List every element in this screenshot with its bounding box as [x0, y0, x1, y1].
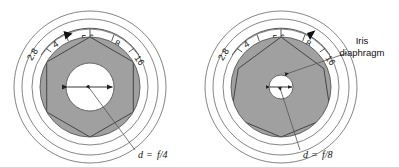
f-number-label-right: f/8: [322, 149, 333, 160]
figure-canvas: 2.8 4 5.6 8 16: [0, 0, 399, 168]
diagram-left-f4: 2.8 4 5.6 8 16: [14, 11, 168, 163]
iris-diaphragm-label-line2: diaphragm: [340, 47, 385, 58]
iris-diaphragm-label-line1: Iris: [356, 35, 369, 46]
d-label-left: d: [138, 149, 144, 160]
aperture-diameter-label-left: d = f/4: [138, 149, 168, 160]
aperture-diagram-svg: 2.8 4 5.6 8 16: [0, 0, 399, 168]
equals-label-left: =: [146, 149, 153, 160]
aperture-diameter-label-right: d = f/8: [303, 149, 333, 160]
iris-diaphragm-callout: Iris diaphragm: [340, 35, 385, 58]
diagram-right-f8: 2.8 4 5.6 8 16 d: [205, 11, 385, 163]
f-number-label-left: f/4: [157, 149, 168, 160]
equals-label-right: =: [311, 149, 318, 160]
